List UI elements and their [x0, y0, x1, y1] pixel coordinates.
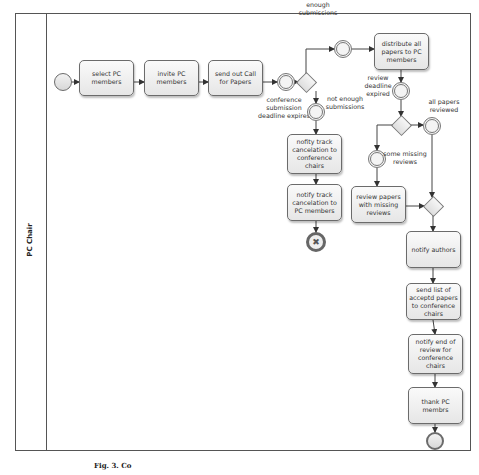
task-invite-pc-members[interactable]: invite PC members: [144, 60, 199, 96]
event-not-enough-submissions[interactable]: [307, 103, 325, 121]
label-review-deadline: review deadline expired: [364, 74, 392, 98]
task-label: review papers with missing reviews: [354, 193, 403, 217]
task-notify-end-of-review[interactable]: notify end of review for conference chai…: [408, 334, 463, 374]
task-label: notify authors: [412, 246, 456, 254]
task-label: notify end of review for conference chai…: [411, 338, 460, 370]
label-enough-submissions: enough submissions: [296, 1, 340, 17]
task-notify-authors[interactable]: notify authors: [406, 231, 461, 268]
task-distribute-papers[interactable]: distribute all papers to PC members: [374, 33, 429, 70]
task-label: select PC members: [82, 70, 131, 86]
task-label: distribute all papers to PC members: [377, 40, 426, 64]
task-send-call-for-papers[interactable]: send out Call for Papers: [208, 60, 263, 96]
task-label: thank PC membrs: [411, 398, 460, 414]
cancel-x-icon: ✖: [309, 235, 323, 249]
task-label: send list of acceptd papers to conferenc…: [409, 286, 458, 318]
cancel-end-event[interactable]: ✖: [306, 232, 326, 252]
start-event[interactable]: [54, 73, 72, 91]
label-all-reviewed: all papers reviewed: [424, 98, 464, 114]
label-some-missing: some missing reviews: [383, 150, 427, 166]
task-review-missing-papers[interactable]: review papers with missing reviews: [351, 186, 406, 223]
task-send-accepted-list[interactable]: send list of acceptd papers to conferenc…: [406, 283, 461, 320]
task-label: invite PC members: [147, 70, 196, 86]
end-event[interactable]: [426, 432, 444, 450]
label-not-enough-submissions: not enough submissions: [320, 95, 370, 111]
event-enough-submissions[interactable]: [334, 40, 352, 58]
task-label: nofity track cancelation to conference c…: [290, 138, 339, 170]
task-thank-pc-members[interactable]: thank PC membrs: [408, 387, 463, 424]
label-deadline-expires: conference submission deadline expires: [254, 96, 314, 120]
event-all-papers-reviewed[interactable]: [423, 117, 441, 135]
task-label: notify track cancelation to PC members: [290, 191, 339, 215]
task-cancel-pc-members[interactable]: notify track cancelation to PC members: [287, 184, 342, 221]
task-label: send out Call for Papers: [211, 70, 260, 86]
figure-caption: Fig. 3. Co: [94, 461, 131, 470]
task-select-pc-members[interactable]: select PC members: [79, 60, 134, 96]
task-cancel-conference-chairs[interactable]: nofity track cancelation to conference c…: [287, 134, 342, 174]
timer-event-submission-deadline[interactable]: [277, 73, 295, 91]
timer-event-review-deadline[interactable]: [392, 82, 410, 100]
